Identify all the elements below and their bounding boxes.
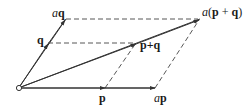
label-aq: aq [52, 6, 65, 20]
label-p-plus-q: p+q [140, 38, 161, 52]
label-ap: ap [154, 91, 167, 105]
vector-p-plus-q-arrow [21, 44, 136, 87]
vector-parallelogram-diagram: aq q p+q a(p + q) p ap [0, 0, 252, 110]
vector-q-arrow [20, 44, 48, 86]
dashed-ap-to-a-p-plus-q [155, 20, 199, 88]
origin-point [16, 85, 21, 90]
label-p: p [99, 91, 106, 105]
vector-aq-arrow [48, 20, 65, 44]
label-q: q [37, 33, 44, 47]
label-a-p-plus-q: a(p + q) [202, 5, 242, 19]
